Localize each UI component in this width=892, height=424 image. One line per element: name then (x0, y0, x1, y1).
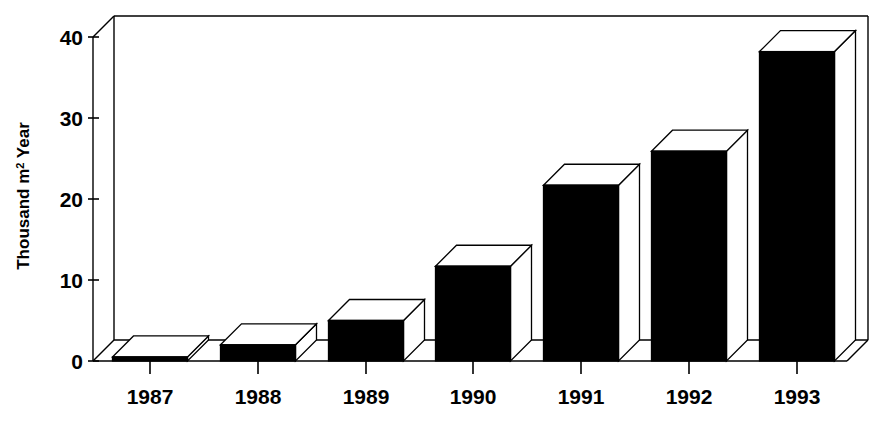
x-tick-label-1991: 1991 (558, 385, 605, 408)
bar-side-face (619, 164, 640, 361)
bar-side-face (727, 130, 748, 361)
y-tick-label-10: 10 (60, 269, 83, 292)
x-tick-label-1989: 1989 (343, 385, 390, 408)
bar-1988 (221, 324, 317, 361)
x-tick-label-1987: 1987 (127, 385, 174, 408)
bar-front-face (544, 185, 619, 361)
y-axis-tick-labels: 40 30 20 10 0 (60, 26, 83, 373)
bar-1992 (652, 130, 748, 361)
bar-1990 (436, 245, 532, 361)
bar-1991 (544, 164, 640, 361)
x-tick-label-1988: 1988 (235, 385, 282, 408)
x-tick-label-1993: 1993 (774, 385, 821, 408)
y-axis-title: Thousand m2 Year (14, 122, 33, 270)
bar-front-face (436, 266, 511, 361)
bar-1993 (760, 31, 856, 361)
frame-depth-floor-left (93, 340, 114, 361)
y-tick-label-0: 0 (71, 350, 83, 373)
frame-depth-top-left (93, 16, 114, 37)
bar-front-face (652, 151, 727, 361)
y-axis-title-prefix: Thousand m (14, 169, 33, 270)
x-axis-tick-labels: 1987 1988 1989 1990 1991 1992 1993 (127, 385, 821, 408)
chart-page: Thousand m2 Year 40 30 20 10 0 (0, 0, 892, 424)
bar-side-face (835, 31, 856, 361)
bar-front-face (329, 321, 404, 362)
bars-group (113, 31, 856, 361)
bar-front-face (221, 345, 296, 361)
y-tick-label-20: 20 (60, 188, 83, 211)
x-axis-ticks (150, 361, 797, 374)
bar-chart-3d: Thousand m2 Year 40 30 20 10 0 (0, 0, 892, 424)
x-tick-label-1990: 1990 (450, 385, 497, 408)
y-tick-label-40: 40 (60, 26, 83, 49)
bar-front-face (113, 357, 188, 361)
svg-text:Thousand m2 Year: Thousand m2 Year (14, 122, 33, 270)
y-tick-label-30: 30 (60, 107, 83, 130)
x-tick-label-1992: 1992 (666, 385, 713, 408)
y-axis-title-suffix: Year (14, 122, 33, 163)
bar-1989 (329, 300, 425, 362)
bar-front-face (760, 52, 835, 361)
